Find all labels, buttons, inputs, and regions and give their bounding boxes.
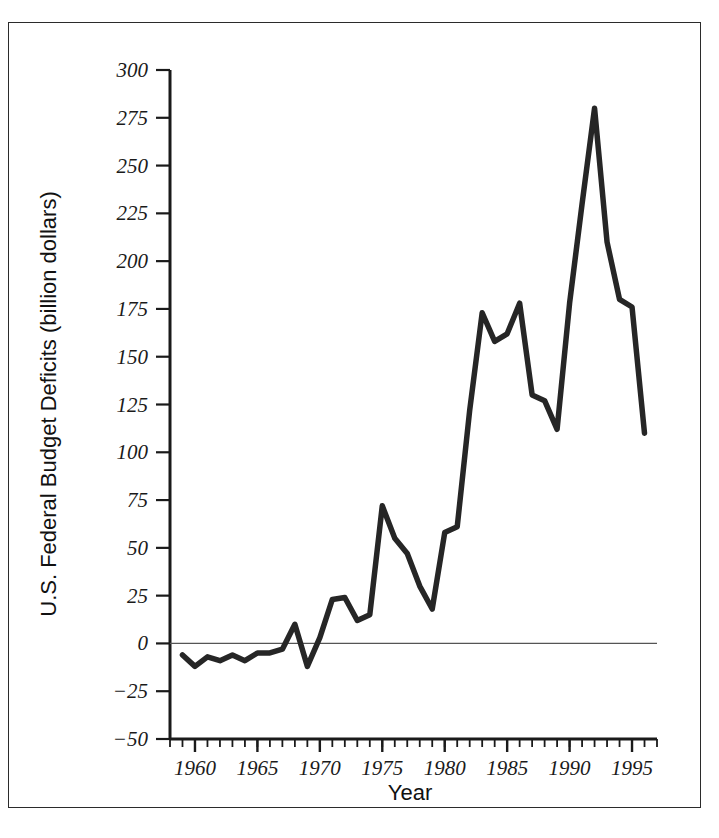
x-tick-label: 1975 <box>361 756 403 780</box>
y-tick-label: 175 <box>117 297 149 321</box>
figure-page: 3002752502252001751501251007550250−25−50… <box>0 0 719 838</box>
y-tick-label: 75 <box>127 488 148 512</box>
y-tick-label: 225 <box>117 201 149 225</box>
chart-container: 3002752502252001751501251007550250−25−50… <box>0 0 719 838</box>
y-tick-label: 300 <box>116 58 149 82</box>
x-tick-label: 1970 <box>299 756 342 780</box>
x-tick-label: 1965 <box>236 756 278 780</box>
y-tick-label: 50 <box>127 536 149 560</box>
x-tick-label: 1980 <box>424 756 467 780</box>
y-tick-label: 0 <box>138 631 149 655</box>
x-tick-label: 1985 <box>486 756 528 780</box>
y-tick-label: 100 <box>117 440 149 464</box>
line-chart: 3002752502252001751501251007550250−25−50… <box>0 0 719 838</box>
y-axis-ticks <box>156 70 170 739</box>
y-axis-title: U.S. Federal Budget Deficits (billion do… <box>36 191 61 617</box>
y-tick-label: 250 <box>117 154 149 178</box>
x-axis-title: Year <box>388 780 432 805</box>
y-tick-label: 275 <box>117 106 149 130</box>
x-axis-tick-labels: 19601965197019751980198519901995 <box>174 756 653 780</box>
y-tick-label: 200 <box>117 249 149 273</box>
x-tick-label: 1990 <box>549 756 592 780</box>
y-tick-label: 150 <box>117 345 149 369</box>
deficit-data-line <box>182 108 644 666</box>
y-tick-label: −50 <box>113 727 149 751</box>
y-tick-label: 25 <box>127 584 148 608</box>
x-tick-label: 1960 <box>174 756 217 780</box>
y-tick-label: 125 <box>117 393 149 417</box>
x-tick-label: 1995 <box>611 756 653 780</box>
y-tick-label: −25 <box>113 679 148 703</box>
y-axis-tick-labels: 3002752502252001751501251007550250−25−50 <box>113 58 149 751</box>
x-axis-major-ticks <box>195 739 632 752</box>
